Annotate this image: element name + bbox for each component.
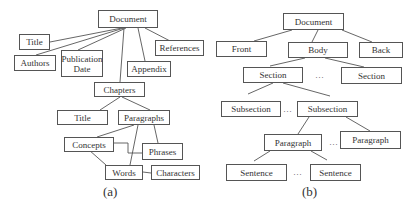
node-document-a: Document xyxy=(98,10,158,28)
node-authors-a: Authors xyxy=(14,55,56,71)
node-chapters-a: Chapters xyxy=(94,82,145,97)
ellipsis-paragraphs: … xyxy=(329,137,338,147)
ellipsis-sentences: … xyxy=(293,167,302,177)
node-paragraph-1-b: Paragraph xyxy=(264,134,322,151)
node-subsection-2-b: Subsection xyxy=(297,101,358,117)
node-paragraphs-a: Paragraphs xyxy=(118,110,170,125)
node-sentence-1-b: Sentence xyxy=(226,164,287,181)
node-paragraph-2-b: Paragraph xyxy=(340,131,401,149)
node-characters-a: Characters xyxy=(151,165,200,180)
node-chapter-title-a: Title xyxy=(57,110,108,125)
node-concepts-a: Concepts xyxy=(64,137,114,152)
node-title-a: Title xyxy=(19,34,50,50)
node-publication-date-a: Publication Date xyxy=(61,50,103,77)
node-body-b: Body xyxy=(288,42,348,58)
node-phrases-a: Phrases xyxy=(142,143,183,160)
node-section-2-b: Section xyxy=(341,67,402,84)
node-words-a: Words xyxy=(105,165,143,180)
node-references-a: References xyxy=(155,40,204,56)
node-appendix-a: Appendix xyxy=(127,61,171,77)
caption-a: (a) xyxy=(103,184,117,200)
caption-b: (b) xyxy=(302,184,317,200)
node-back-b: Back xyxy=(359,42,403,58)
node-section-1-b: Section xyxy=(243,67,303,83)
node-sentence-2-b: Sentence xyxy=(310,164,361,181)
ellipsis-subsections: … xyxy=(283,104,292,114)
node-subsection-1-b: Subsection xyxy=(221,101,281,117)
node-front-b: Front xyxy=(216,41,267,57)
ellipsis-sections: … xyxy=(315,70,324,80)
node-document-b: Document xyxy=(283,13,344,30)
